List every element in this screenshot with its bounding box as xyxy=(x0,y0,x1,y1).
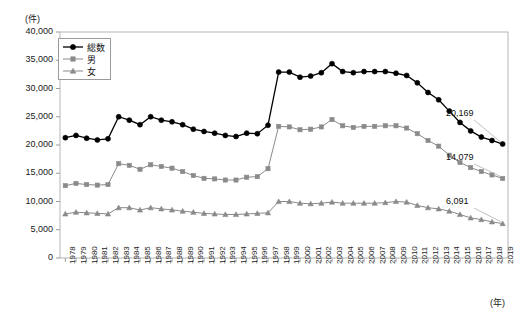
x-axis-tick-label: 1998 xyxy=(282,246,291,264)
x-axis-tick-label: 1994 xyxy=(239,246,248,264)
y-axis-tick-label: 30,000 xyxy=(0,83,53,93)
x-axis-tick-label: 2011 xyxy=(420,247,429,264)
x-axis-tick-label: 1997 xyxy=(271,246,280,264)
legend-marker-circle-icon xyxy=(62,42,84,52)
x-axis-tick-label: 1986 xyxy=(154,246,163,264)
legend-marker-triangle-icon xyxy=(62,66,84,76)
x-axis-tick-label: 1982 xyxy=(111,246,120,264)
x-axis-tick-label: 2006 xyxy=(367,246,376,264)
x-axis-tick-label: 2003 xyxy=(335,246,344,264)
line-chart: 40,00035,00030,00025,00020,00015,00010,0… xyxy=(0,0,524,319)
x-axis-tick-label: 2002 xyxy=(324,246,333,264)
y-axis-tick-label: 15,000 xyxy=(0,167,53,177)
x-axis-tick-label: 2001 xyxy=(314,246,323,264)
x-axis-tick-label: 2018 xyxy=(495,246,504,264)
series-end-value-label: 14,079 xyxy=(446,152,474,162)
x-axis-tick-label: 1987 xyxy=(164,246,173,264)
y-axis-tick-label: 35,000 xyxy=(0,54,53,64)
x-axis-tick-label: 1995 xyxy=(250,246,259,264)
x-axis-tick-label: 1981 xyxy=(100,246,109,264)
series-0 xyxy=(63,61,505,146)
x-axis-tick-label: 1996 xyxy=(260,246,269,264)
x-axis-tick-label: 1984 xyxy=(132,246,141,264)
series-1 xyxy=(63,117,505,187)
x-axis-tick-label: 2016 xyxy=(474,246,483,264)
y-axis-tick-label: 20,000 xyxy=(0,139,53,149)
x-axis-tick-label: 1988 xyxy=(175,246,184,264)
series-end-value-label: 20,169 xyxy=(446,108,474,118)
y-axis-tick-label: 40,000 xyxy=(0,26,53,36)
y-axis-unit-label: (件) xyxy=(25,12,40,25)
series-2 xyxy=(63,199,506,226)
legend-label: 女 xyxy=(87,65,96,78)
y-axis-tick-label: 10,000 xyxy=(0,196,53,206)
x-axis-tick-label: 2005 xyxy=(356,246,365,264)
x-axis-tick-label: 2008 xyxy=(388,246,397,264)
x-axis-tick-label: 1985 xyxy=(143,246,152,264)
x-axis-tick-label: 2009 xyxy=(399,246,408,264)
x-axis-tick-label: 2014 xyxy=(452,246,461,264)
x-axis-tick-label: 1991 xyxy=(207,246,216,264)
series-end-value-label: 6,091 xyxy=(446,196,469,206)
x-axis-tick-label: 1980 xyxy=(90,246,99,264)
x-axis-tick-label: 2010 xyxy=(410,246,419,264)
x-axis-tick-label: 2004 xyxy=(346,246,355,264)
chart-legend: 総数男女 xyxy=(58,38,111,80)
x-axis-tick-label: 2013 xyxy=(442,246,451,264)
x-axis-tick-label: 1989 xyxy=(186,246,195,264)
y-axis-tick-label: 5,000 xyxy=(0,224,53,234)
x-axis-tick-label: 1979 xyxy=(79,246,88,264)
x-axis-tick-label: 1992 xyxy=(218,246,227,264)
y-axis-tick-label: 25,000 xyxy=(0,111,53,121)
legend-item-2[interactable]: 女 xyxy=(62,65,105,77)
legend-item-0[interactable]: 総数 xyxy=(62,41,105,53)
legend-marker-square-icon xyxy=(62,54,84,64)
x-axis-unit-label: (年) xyxy=(490,296,505,309)
x-axis-tick-label: 1983 xyxy=(122,246,131,264)
legend-item-1[interactable]: 男 xyxy=(62,53,105,65)
x-axis-tick-label: 2017 xyxy=(484,246,493,264)
x-axis-tick-label: 2019 xyxy=(506,246,515,264)
x-axis-tick-label: 1999 xyxy=(292,246,301,264)
x-axis-tick-label: 2012 xyxy=(431,246,440,264)
x-axis-tick-label: 1990 xyxy=(196,246,205,264)
x-axis-tick-label: 1978 xyxy=(68,246,77,264)
x-axis-tick-label: 2015 xyxy=(463,246,472,264)
x-axis-tick-label: 2000 xyxy=(303,246,312,264)
y-axis-tick-label: 0 xyxy=(0,252,53,262)
x-axis-tick-label: 1993 xyxy=(228,246,237,264)
x-axis-tick-label: 2007 xyxy=(378,246,387,264)
